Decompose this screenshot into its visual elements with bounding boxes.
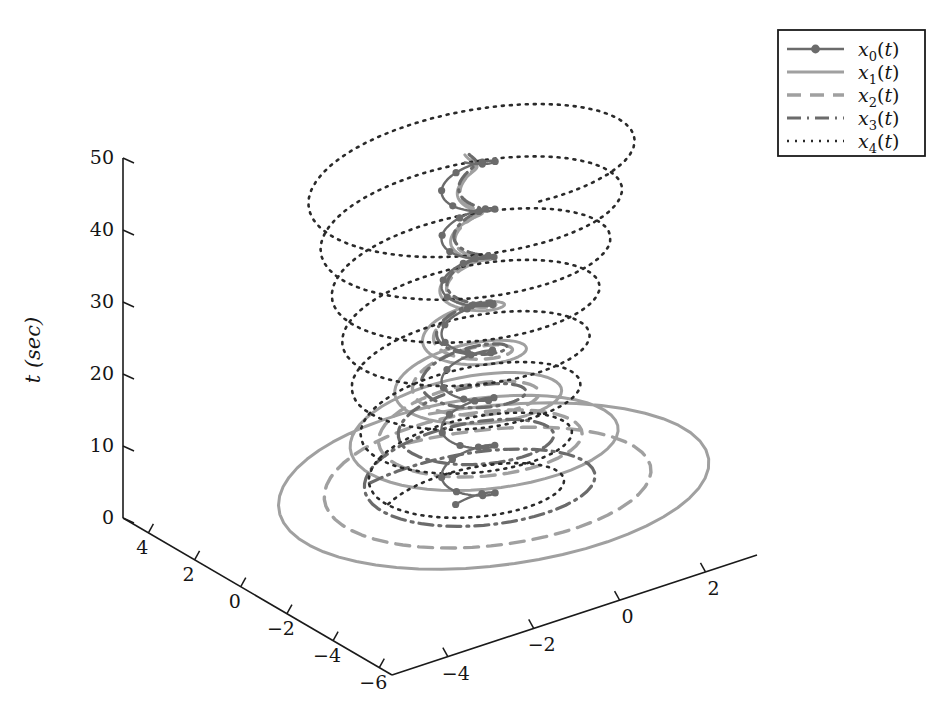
data-marker: [452, 501, 459, 508]
data-marker: [482, 444, 489, 451]
data-marker: [452, 169, 459, 176]
data-marker: [460, 396, 467, 403]
t-axis-tick-label: 40: [90, 218, 114, 240]
plot-svg: 01020304050t (sec)420−2−4−6−4−202 x0(t)x…: [0, 0, 939, 716]
x-axis-tick-label: 0: [229, 590, 241, 612]
y-axis-line: [392, 555, 757, 675]
data-marker: [439, 429, 446, 436]
data-marker: [475, 444, 482, 451]
x-axis-tick-label: 4: [136, 536, 148, 558]
y-axis-tick: [615, 591, 620, 600]
data-marker: [475, 208, 482, 215]
x-axis-tick: [379, 659, 384, 668]
curve-path: [278, 155, 708, 569]
data-marker: [492, 158, 499, 165]
data-marker: [446, 248, 453, 255]
data-marker: [446, 411, 453, 418]
figure-canvas: 01020304050t (sec)420−2−4−6−4−202 x0(t)x…: [0, 0, 939, 716]
data-marker: [471, 397, 478, 404]
y-axis-tick-label: 0: [622, 605, 634, 627]
data-marker: [440, 384, 447, 391]
y-axis-tick-label: 2: [707, 577, 719, 599]
x-axis-tick: [241, 578, 246, 587]
data-marker: [439, 232, 446, 239]
data-marker: [453, 488, 460, 495]
t-axis-tick-label: 10: [90, 434, 114, 456]
t-axis-tick: [123, 302, 134, 307]
t-axis-tick: [123, 446, 134, 451]
data-marker: [440, 276, 447, 283]
data-marker: [479, 160, 486, 167]
t-axis-title: t (sec): [21, 317, 45, 383]
data-marker: [492, 489, 499, 496]
t-axis-tick-label: 50: [90, 146, 114, 168]
x-axis-line: [123, 518, 392, 675]
data-marker: [449, 456, 456, 463]
x-axis-tick-label: −4: [313, 644, 341, 666]
series-x1t: [278, 155, 708, 569]
legend-marker-sample: [811, 45, 820, 54]
data-marker: [487, 349, 494, 356]
y-axis-tick: [443, 648, 448, 657]
series-x0t: [438, 158, 499, 508]
x-axis-tick: [148, 524, 153, 533]
data-marker: [449, 202, 456, 209]
x-axis-tick: [195, 551, 200, 560]
t-axis-tick-label: 30: [90, 290, 114, 312]
data-marker: [485, 397, 492, 404]
data-marker: [460, 260, 467, 267]
x-axis-tick-label: −2: [267, 617, 295, 639]
t-axis-tick: [123, 518, 134, 523]
x-axis-tick: [287, 605, 292, 614]
x-axis-tick-label: 2: [183, 563, 195, 585]
data-marker: [464, 349, 471, 356]
data-marker: [443, 366, 450, 373]
data-marker: [456, 442, 463, 449]
data-marker: [441, 339, 448, 346]
curves-layer: [278, 104, 708, 569]
legend[interactable]: x0(t)x1(t)x2(t)x3(t)x4(t): [778, 30, 925, 156]
data-marker: [438, 187, 445, 194]
t-axis-tick-label: 20: [90, 362, 114, 384]
data-marker: [491, 442, 498, 449]
y-axis-tick-label: −4: [442, 662, 470, 684]
data-marker: [468, 302, 475, 309]
data-marker: [444, 294, 451, 301]
data-marker: [438, 474, 445, 481]
data-marker: [491, 206, 498, 213]
t-axis-tick: [123, 230, 134, 235]
data-marker: [490, 253, 497, 260]
data-marker: [489, 301, 496, 308]
x-axis-tick-label: −6: [359, 671, 387, 693]
data-marker: [456, 214, 463, 221]
y-axis-tick: [529, 619, 534, 628]
data-marker: [441, 321, 448, 328]
data-marker: [482, 205, 489, 212]
y-axis-tick: [700, 563, 705, 572]
data-marker: [479, 492, 486, 499]
y-axis-tick-label: −2: [528, 633, 556, 655]
t-axis-tick-label: 0: [102, 506, 114, 528]
t-axis-tick: [123, 374, 134, 379]
x-axis-tick: [333, 632, 338, 641]
t-axis-tick: [123, 158, 134, 163]
data-marker: [472, 255, 479, 262]
